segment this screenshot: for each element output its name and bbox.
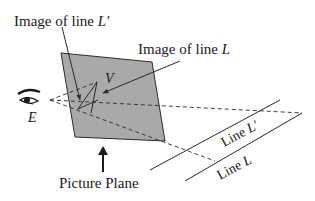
label-line-l: Line L xyxy=(214,152,254,183)
label-image-of-line-l: Image of line L xyxy=(138,41,230,57)
eye-icon xyxy=(18,90,40,104)
label-vanishing-point: V xyxy=(105,71,115,86)
perspective-diagram: Image of line L′ Image of line L V E Pic… xyxy=(0,0,315,201)
picture-plane xyxy=(61,53,165,141)
label-picture-plane: Picture Plane xyxy=(59,175,139,191)
line-lprime xyxy=(150,100,280,170)
label-image-of-line-lprime: Image of line L′ xyxy=(14,13,110,29)
arrow-up-icon xyxy=(98,146,108,172)
label-eye-point: E xyxy=(27,110,37,125)
